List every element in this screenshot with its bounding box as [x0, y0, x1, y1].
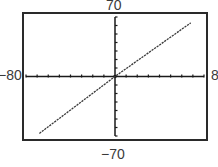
graph-window: [0, 0, 218, 167]
